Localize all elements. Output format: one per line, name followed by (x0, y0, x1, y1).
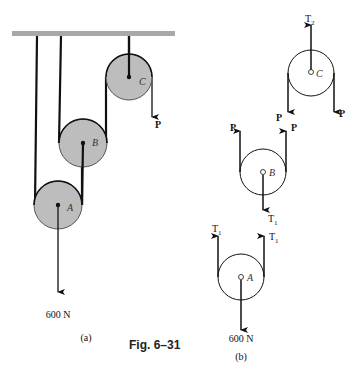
fbd-A-label: A (246, 272, 254, 283)
fbd-B-right-P-label: P (291, 122, 297, 133)
fbd-C-label: C (316, 68, 323, 79)
rope-ceiling-to-A (35, 36, 37, 205)
part-b-label: (b) (235, 351, 247, 363)
force-P-label-a: P (155, 119, 161, 130)
part-a-label: (a) (80, 332, 91, 344)
figure-caption: Fig. 6–31 (129, 338, 181, 352)
diagram-a: C B A 600 N P (a) (12, 31, 175, 344)
axle-C (127, 75, 131, 79)
diagram-b: T2 C P P B P P T1 A T1 T1 600 N (b) (212, 13, 345, 363)
svg-text:T1: T1 (268, 213, 278, 227)
svg-text:T1: T1 (269, 231, 279, 245)
fbd-C-left-P-label: P (276, 112, 282, 123)
ceiling-support (12, 31, 175, 36)
label-B: B (92, 137, 98, 148)
axle-B (81, 141, 85, 145)
fbd-A-load-label: 600 N (229, 333, 254, 344)
svg-text:T2: T2 (305, 13, 315, 27)
label-A: A (66, 202, 74, 213)
rope-ceiling-to-B (59, 36, 61, 143)
fbd-B-left-P-label: P (230, 122, 236, 133)
fbd-C-right-P-label: P (339, 108, 345, 119)
pulley-figure: C B A 600 N P (a) T2 C P P B (0, 0, 358, 370)
load-label-a: 600 N (46, 309, 71, 320)
svg-text:T1: T1 (212, 223, 222, 237)
fbd-B-label: B (269, 167, 275, 178)
label-C: C (139, 76, 146, 87)
